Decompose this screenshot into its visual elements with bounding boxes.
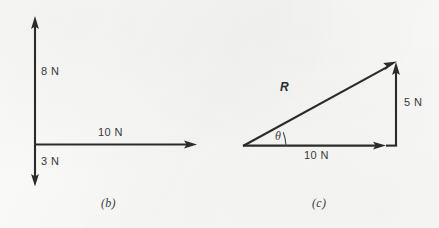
right-vector-10n (35, 141, 197, 149)
down-vector-3n (31, 144, 39, 187)
label-right-force: 10 N (98, 126, 123, 138)
label-angle-theta: θ (275, 129, 281, 144)
panel-b-vector-diagram (0, 0, 220, 228)
caption-panel-c: (c) (312, 196, 326, 211)
label-up-force: 8 N (41, 65, 59, 77)
up-vector-8n (31, 16, 39, 144)
label-down-force: 3 N (41, 155, 59, 167)
panel-c-vector-diagram (220, 0, 439, 228)
panel-b: 8 N 10 N 3 N (b) (0, 0, 220, 228)
caption-panel-b: (b) (101, 196, 116, 211)
vertical-vector-5n (386, 62, 400, 146)
label-vertical-force: 5 N (404, 96, 422, 108)
panel-c: R θ 5 N 10 N (c) (220, 0, 439, 228)
label-resultant: R (280, 80, 289, 94)
resultant-vector-r (243, 62, 397, 147)
figure-container: 8 N 10 N 3 N (b) (0, 0, 439, 228)
label-horizontal-force: 10 N (304, 149, 329, 161)
angle-arc (283, 132, 286, 146)
